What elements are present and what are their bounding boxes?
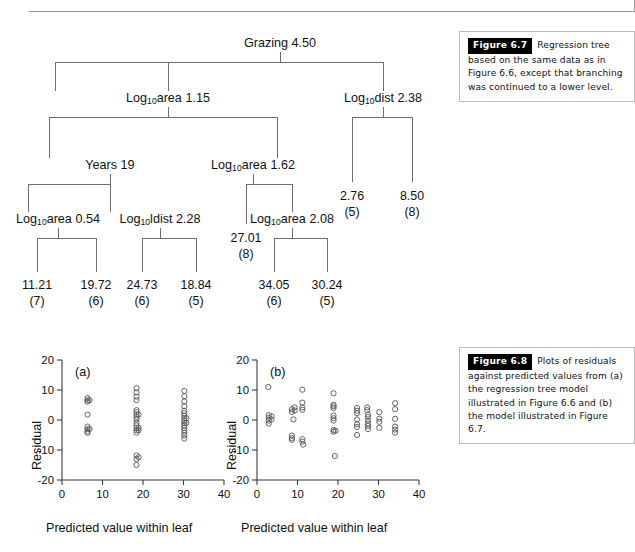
svg-text:40: 40 (413, 488, 426, 500)
data-point (331, 391, 336, 396)
tree-node-log10area-2-08: Log10area 2.08 (250, 212, 334, 229)
tree-node-years-19: Years 19 (85, 158, 134, 172)
data-point (182, 388, 187, 393)
tree-leaf-8-50: 8.50 (8) (400, 189, 424, 220)
svg-text:30: 30 (177, 488, 190, 500)
plot-a-canvas: -20-1001020010203040 (22, 352, 232, 512)
figure-caption-6-7: Figure 6.7Regression tree based on the s… (459, 31, 635, 102)
plot-b-panel-label: (b) (270, 365, 285, 379)
plot-a-y-axis-title: Residual (30, 421, 44, 470)
svg-text:0: 0 (243, 414, 249, 426)
svg-text:0: 0 (59, 488, 65, 500)
svg-text:10: 10 (236, 384, 249, 396)
data-point (354, 432, 359, 437)
svg-text:20: 20 (236, 354, 249, 366)
svg-text:10: 10 (96, 488, 109, 500)
data-point (300, 387, 305, 392)
plot-b-x-axis-title: Predicted value within leaf (241, 521, 387, 535)
tree-node-log10area-1-62: Log10area 1.62 (211, 158, 295, 175)
data-point (134, 462, 139, 467)
svg-text:20: 20 (137, 488, 150, 500)
svg-text:10: 10 (41, 384, 54, 396)
tree-leaf-30-24: 30.24 (5) (311, 278, 342, 309)
residual-plot-b: -20-1001020010203040 (217, 352, 427, 512)
tree-leaf-34-05: 34.05 (6) (258, 278, 289, 309)
data-point (134, 398, 139, 403)
tree-leaf-24-73: 24.73 (6) (126, 278, 157, 309)
svg-text:-20: -20 (233, 474, 249, 486)
svg-text:0: 0 (48, 414, 54, 426)
data-point (393, 416, 398, 421)
tree-leaf-11-21: 11.21 (7) (22, 278, 52, 309)
data-point (301, 442, 306, 447)
plot-b-y-axis-title: Residual (225, 421, 239, 470)
figure-caption-6-8-tag: Figure 6.8 (468, 354, 532, 370)
data-point (85, 412, 90, 417)
data-point (291, 417, 296, 422)
tree-leaf-27-01: 27.01 (8) (230, 231, 261, 262)
svg-text:20: 20 (332, 488, 345, 500)
plot-a-panel-label: (a) (75, 365, 90, 379)
svg-text:30: 30 (372, 488, 385, 500)
data-point (393, 401, 398, 406)
regression-tree-diagram: Grazing 4.50 Log10area 1.15 Log10dist 2.… (0, 0, 455, 330)
tree-leaf-18-84: 18.84 (5) (180, 278, 211, 309)
figure-page: Grazing 4.50 Log10area 1.15 Log10dist 2.… (0, 0, 635, 552)
tree-leaf-2-76: 2.76 (5) (340, 189, 364, 220)
figure-caption-6-7-tag: Figure 6.7 (468, 38, 532, 54)
plot-b-canvas: -20-1001020010203040 (217, 352, 427, 512)
svg-text:10: 10 (291, 488, 304, 500)
svg-text:0: 0 (254, 488, 260, 500)
tree-node-log10ldist-2-28: Log10ldist 2.28 (120, 212, 201, 229)
data-point (266, 384, 271, 389)
data-point (377, 410, 382, 415)
data-point (182, 394, 187, 399)
svg-text:-20: -20 (38, 474, 54, 486)
data-point (332, 453, 337, 458)
figure-caption-6-8: Figure 6.8Plots of residuals against pre… (459, 347, 635, 444)
data-point (377, 425, 382, 430)
tree-node-log10area-0-54: Log10area 0.54 (16, 212, 100, 229)
tree-node-log10area-1-15: Log10area 1.15 (126, 91, 210, 108)
tree-node-root: Grazing 4.50 (244, 36, 316, 50)
plot-a-x-axis-title: Predicted value within leaf (46, 521, 192, 535)
residual-plot-a: -20-1001020010203040 (22, 352, 232, 512)
tree-leaf-19-72: 19.72 (6) (80, 278, 111, 309)
tree-node-log10dist-2-38: Log10dist 2.38 (344, 91, 422, 108)
data-point (393, 407, 398, 412)
svg-text:20: 20 (41, 354, 54, 366)
